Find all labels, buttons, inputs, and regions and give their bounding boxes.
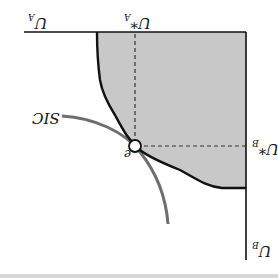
label-point-e: e <box>124 148 131 160</box>
feasible-region <box>97 32 246 188</box>
label-u-a-star: U*A <box>124 12 151 30</box>
bottom-edge-strip <box>0 274 278 278</box>
utility-possibility-diagram <box>0 0 278 278</box>
label-u-a: UA <box>28 12 47 30</box>
label-u-b: UB <box>252 240 271 258</box>
label-u-b-star: U*B <box>252 138 278 156</box>
diagram: UA U*A U*B UB SIC e <box>0 0 278 278</box>
label-sic: SIC <box>32 110 60 125</box>
